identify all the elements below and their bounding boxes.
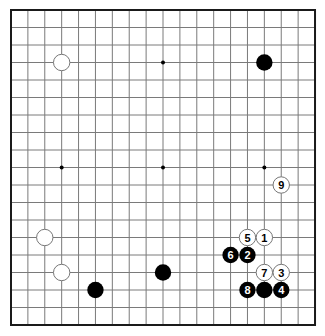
white-stone — [53, 54, 69, 70]
stone-circle — [155, 264, 171, 280]
black-stone-move-2: 2 — [239, 247, 255, 263]
stone-circle — [256, 54, 272, 70]
move-number-label: 3 — [278, 267, 284, 279]
move-number-label: 5 — [244, 232, 250, 244]
move-number-label: 8 — [244, 284, 250, 296]
white-stone-move-1: 1 — [256, 229, 272, 245]
black-stone-move-4: 4 — [273, 282, 289, 298]
black-stone — [87, 282, 103, 298]
white-stone — [37, 229, 53, 245]
white-stone — [53, 264, 69, 280]
star-point — [161, 166, 165, 170]
black-stone-move-8: 8 — [239, 282, 255, 298]
go-board[interactable]: 951627384 — [0, 0, 325, 336]
move-number-label: 9 — [278, 179, 284, 191]
move-number-label: 1 — [261, 232, 267, 244]
white-stone-move-3: 3 — [273, 264, 289, 280]
stone-circle — [37, 229, 53, 245]
white-stone-move-9: 9 — [273, 177, 289, 193]
star-point — [262, 166, 266, 170]
stone-circle — [53, 54, 69, 70]
move-number-label: 7 — [261, 267, 267, 279]
white-stone-move-5: 5 — [239, 229, 255, 245]
black-stone — [256, 282, 272, 298]
black-stone — [256, 54, 272, 70]
stone-circle — [256, 282, 272, 298]
move-number-label: 2 — [244, 249, 250, 261]
star-point — [161, 61, 165, 65]
white-stone-move-7: 7 — [256, 264, 272, 280]
black-stone — [155, 264, 171, 280]
star-point — [60, 166, 64, 170]
stone-circle — [53, 264, 69, 280]
move-number-label: 6 — [228, 249, 234, 261]
move-number-label: 4 — [278, 284, 285, 296]
black-stone-move-6: 6 — [222, 247, 238, 263]
stone-circle — [87, 282, 103, 298]
